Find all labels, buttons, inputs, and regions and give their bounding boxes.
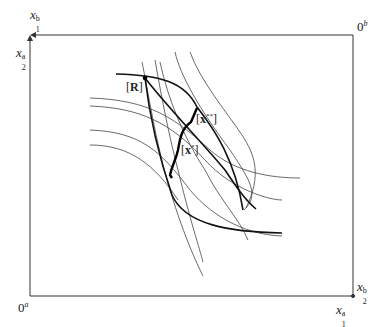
- axis-label-x2-a: xa2: [16, 46, 22, 59]
- axis-label-x2-b: xb2: [357, 280, 363, 293]
- edgeworth-box-diagram: [0, 0, 385, 327]
- axis-label-x1-b: xb1: [30, 8, 36, 21]
- point-label-x-double-star: [x**]: [196, 113, 217, 125]
- axis-label-x1-a: xa1: [336, 303, 342, 316]
- origin-a: 0a: [18, 301, 29, 314]
- point-label-R: [R]: [126, 81, 143, 93]
- origin-b: 0b: [357, 20, 368, 33]
- indifference-curves-b: [142, 52, 255, 276]
- box-frame: [30, 35, 355, 298]
- point-label-x-star: [x*]: [181, 144, 199, 156]
- point-R-dot: [143, 76, 148, 81]
- indifference-curves-a: [90, 98, 300, 236]
